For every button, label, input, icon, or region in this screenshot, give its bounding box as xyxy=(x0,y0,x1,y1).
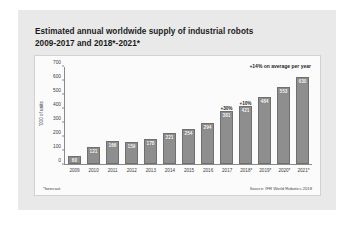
growth-annotation: +30% xyxy=(220,106,232,111)
bar-value-label: 294 xyxy=(203,125,211,130)
bar-value-label: 630 xyxy=(298,79,306,84)
page-title: Estimated annual worldwide supply of ind… xyxy=(35,26,315,49)
bar-value-label: 484 xyxy=(260,99,268,104)
bar-slot: 484 xyxy=(255,67,274,164)
bar[interactable]: 254 xyxy=(182,129,196,164)
forecast-footnote: *forecast xyxy=(43,186,60,191)
x-axis-tick-label: 2015 xyxy=(179,168,198,173)
title-line-2: 2009-2017 and 2018*-2021* xyxy=(35,38,315,50)
x-axis-tick-label: 2016 xyxy=(199,168,218,173)
x-axis-tick-label: 2010 xyxy=(84,168,103,173)
y-axis-tick-mark xyxy=(62,164,64,165)
x-axis-tick-label: 2013 xyxy=(141,168,160,173)
bar[interactable]: 381+30% xyxy=(220,111,234,164)
y-axis-tick-mark xyxy=(62,150,64,151)
bar-slot: 553 xyxy=(274,67,293,164)
bar[interactable]: 630 xyxy=(296,77,310,164)
bar[interactable]: 221 xyxy=(163,133,177,164)
bar[interactable]: 294 xyxy=(201,123,215,164)
y-axis-tick-label: 700 xyxy=(53,60,61,65)
y-axis-tick-label: 200 xyxy=(53,130,61,135)
x-axis-tick-label: 2019* xyxy=(256,168,275,173)
bar[interactable]: 60 xyxy=(68,156,82,164)
bar-value-label: 60 xyxy=(72,158,77,163)
bar[interactable]: 484 xyxy=(258,97,272,164)
title-line-1: Estimated annual worldwide supply of ind… xyxy=(35,27,253,36)
bar-value-label: 121 xyxy=(89,149,97,154)
bar[interactable]: 121 xyxy=(87,147,101,164)
bar-series: 60121166159178221254294381+30%421+10%484… xyxy=(65,67,312,164)
bar-slot: 166 xyxy=(103,67,122,164)
bar-slot: 630 xyxy=(293,67,312,164)
bar-slot: 421+10% xyxy=(236,67,255,164)
y-axis-tick-mark xyxy=(62,94,64,95)
bar[interactable]: 166 xyxy=(106,141,120,164)
y-axis-title: '000 of units xyxy=(39,84,44,144)
x-axis-tick-label: 2020* xyxy=(275,168,294,173)
bar-value-label: 254 xyxy=(184,131,192,136)
chart-plot-area: '000 of units 0100200300400500600700 601… xyxy=(64,67,312,165)
bar-value-label: 421 xyxy=(241,108,249,113)
x-axis-tick-label: 2021* xyxy=(294,168,313,173)
bar-value-label: 159 xyxy=(127,144,135,149)
y-axis-tick-label: 500 xyxy=(53,88,61,93)
bar-slot: 381+30% xyxy=(217,67,236,164)
bar[interactable]: 159 xyxy=(125,142,139,164)
y-axis-tick-label: 400 xyxy=(53,102,61,107)
bar-value-label: 553 xyxy=(279,89,287,94)
y-axis-tick-mark xyxy=(62,122,64,123)
bar[interactable]: 178 xyxy=(144,139,158,164)
bar-slot: 121 xyxy=(84,67,103,164)
y-axis-tick-label: 0 xyxy=(58,158,61,163)
y-axis-tick-mark xyxy=(62,80,64,81)
y-axis-tick-label: 100 xyxy=(53,144,61,149)
growth-annotation: +10% xyxy=(239,101,251,106)
bar-slot: 221 xyxy=(160,67,179,164)
x-axis-tick-label: 2009 xyxy=(65,168,84,173)
x-axis-tick-label: 2011 xyxy=(103,168,122,173)
bar-slot: 60 xyxy=(65,67,84,164)
source-attribution: Source: IFR World Robotics 2018 xyxy=(250,186,312,191)
bar-value-label: 381 xyxy=(222,113,230,118)
bar-slot: 159 xyxy=(122,67,141,164)
bar-slot: 294 xyxy=(198,67,217,164)
y-axis-tick-mark xyxy=(62,108,64,109)
bar-slot: 254 xyxy=(179,67,198,164)
x-axis-tick-label: 2014 xyxy=(160,168,179,173)
bar-value-label: 178 xyxy=(146,141,154,146)
x-axis-tick-label: 2017 xyxy=(218,168,237,173)
chart-card: +14% on average per year '000 of units 0… xyxy=(34,55,321,196)
y-axis-tick-mark xyxy=(62,136,64,137)
bar[interactable]: 553 xyxy=(277,87,291,164)
x-axis-labels: 2009201020112012201320142015201620172018… xyxy=(65,168,313,173)
x-axis-tick-label: 2012 xyxy=(122,168,141,173)
bar[interactable]: 421+10% xyxy=(239,106,253,164)
slide-card: Estimated annual worldwide supply of ind… xyxy=(18,10,336,210)
y-axis-tick-mark xyxy=(62,66,64,67)
bar-value-label: 221 xyxy=(165,135,173,140)
bar-slot: 178 xyxy=(141,67,160,164)
x-axis-line xyxy=(64,164,312,165)
bar-value-label: 166 xyxy=(108,143,116,148)
y-axis-tick-label: 600 xyxy=(53,74,61,79)
x-axis-tick-label: 2018* xyxy=(237,168,256,173)
y-axis-tick-label: 300 xyxy=(53,116,61,121)
